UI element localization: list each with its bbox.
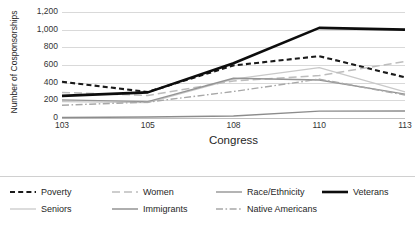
x-axis-title: Congress	[62, 134, 405, 146]
legend-swatch-women	[112, 187, 138, 197]
x-axis-tick-labels: 103105108110113	[62, 120, 405, 134]
legend-item-native-americans[interactable]: Native Americans	[216, 200, 317, 217]
legend-swatch-native-americans	[216, 204, 242, 214]
x-tick-label: 103	[55, 120, 69, 130]
series-line-poverty	[62, 56, 405, 92]
chart-legend: PovertyWomenRace/EthnicityVeteransSenior…	[0, 176, 415, 222]
plot-wrapper: Number of Cosponsorships 02004006008001,…	[0, 0, 415, 160]
x-tick-label: 110	[312, 120, 326, 130]
y-axis-title: Number of Cosponsorships	[9, 2, 19, 122]
y-tick-label: 1,200	[22, 7, 58, 16]
legend-item-seniors[interactable]: Seniors	[10, 200, 72, 217]
legend-row: PovertyWomenRace/EthnicityVeterans	[0, 183, 415, 200]
legend-label: Veterans	[353, 187, 389, 197]
legend-label: Poverty	[41, 187, 72, 197]
legend-swatch-immigrants	[112, 204, 138, 214]
plot-area	[62, 12, 405, 118]
series-line-immigrants	[62, 111, 405, 118]
legend-item-women[interactable]: Women	[112, 183, 174, 200]
legend-item-veterans[interactable]: Veterans	[322, 183, 389, 200]
y-tick-label: 600	[22, 60, 58, 69]
legend-label: Immigrants	[143, 204, 188, 214]
y-tick-label: 0	[22, 113, 58, 122]
y-axis-tick-labels: 02004006008001,0001,200	[20, 0, 58, 160]
legend-row: SeniorsImmigrantsNative Americans	[0, 200, 415, 217]
legend-swatch-veterans	[322, 187, 348, 197]
legend-label: Women	[143, 187, 174, 197]
x-tick-label: 108	[226, 120, 240, 130]
legend-swatch-seniors	[10, 204, 36, 214]
legend-label: Race/Ethnicity	[247, 187, 305, 197]
y-tick-label: 400	[22, 78, 58, 87]
legend-label: Seniors	[41, 204, 72, 214]
legend-swatch-race-ethnicity	[216, 187, 242, 197]
y-tick-label: 200	[22, 95, 58, 104]
legend-item-poverty[interactable]: Poverty	[10, 183, 72, 200]
legend-item-race-ethnicity[interactable]: Race/Ethnicity	[216, 183, 305, 200]
y-tick-label: 800	[22, 42, 58, 51]
legend-swatch-poverty	[10, 187, 36, 197]
legend-label: Native Americans	[247, 204, 317, 214]
series-lines	[62, 12, 405, 118]
y-tick-label: 1,000	[22, 25, 58, 34]
legend-item-immigrants[interactable]: Immigrants	[112, 200, 188, 217]
gridline-0	[62, 118, 405, 119]
x-tick-label: 113	[398, 120, 412, 130]
x-tick-label: 105	[141, 120, 155, 130]
series-line-race-ethnicity	[62, 78, 405, 101]
cosponsorships-line-chart: Number of Cosponsorships 02004006008001,…	[0, 0, 415, 227]
